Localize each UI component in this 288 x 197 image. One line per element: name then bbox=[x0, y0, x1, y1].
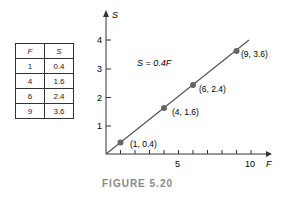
y-tick-label-4: 4 bbox=[97, 35, 102, 45]
data-point bbox=[118, 140, 124, 146]
point-label: (9, 3.6) bbox=[241, 49, 268, 59]
y-tick-label-1: 1 bbox=[97, 121, 102, 131]
y-ticks bbox=[106, 40, 111, 126]
figure-caption: FIGURE 5.20 bbox=[102, 178, 173, 189]
point-label: (4, 1.6) bbox=[172, 107, 199, 117]
y-tick-label-2: 2 bbox=[97, 93, 102, 103]
equation-annotation: S = 0.4F bbox=[137, 58, 172, 68]
line-chart: S F 5 10 1 2 3 4 (1, 0.4) (4, 1.6) (6, 2… bbox=[0, 0, 288, 197]
data-point bbox=[234, 48, 240, 54]
x-ticks bbox=[121, 150, 252, 154]
x-axis-arrow-icon bbox=[266, 151, 272, 157]
point-label: (6, 2.4) bbox=[199, 84, 226, 94]
data-line bbox=[106, 40, 249, 154]
y-axis-label: S bbox=[112, 10, 118, 20]
x-tick-label-5: 5 bbox=[175, 159, 180, 169]
data-point bbox=[161, 105, 167, 111]
data-point bbox=[190, 82, 196, 88]
point-label: (1, 0.4) bbox=[130, 139, 157, 149]
y-tick-label-3: 3 bbox=[97, 64, 102, 74]
x-axis-label: F bbox=[266, 159, 272, 169]
y-axis-arrow-icon bbox=[103, 10, 109, 17]
x-tick-label-10: 10 bbox=[245, 159, 255, 169]
